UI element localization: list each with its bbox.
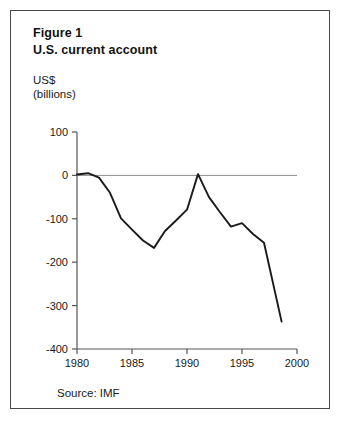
y-axis: 1000-100-200-300-400	[46, 126, 77, 355]
x-axis-tick-label: 1980	[65, 357, 89, 369]
data-series-line	[77, 173, 282, 321]
y-axis-tick-label: -400	[46, 343, 68, 355]
figure-card: Figure 1 U.S. current account US$ (billi…	[10, 10, 330, 409]
series-polyline	[77, 173, 282, 321]
y-axis-tick-label: -200	[46, 256, 68, 268]
source-note: Source: IMF	[57, 387, 120, 399]
y-axis-tick-label: -300	[46, 300, 68, 312]
x-axis-tick-label: 1990	[175, 357, 199, 369]
x-axis-tick-label: 1985	[120, 357, 144, 369]
x-axis-tick-label: 1995	[230, 357, 254, 369]
x-axis-tick-label: 2000	[285, 357, 309, 369]
source-text: Source: IMF	[57, 387, 120, 399]
chart-plot-area: 1000-100-200-300-400 1980198519901995200…	[11, 11, 331, 410]
y-axis-tick-label: 100	[50, 126, 68, 138]
x-axis: 19801985199019952000	[65, 349, 309, 369]
y-axis-tick-label: -100	[46, 213, 68, 225]
y-axis-tick-label: 0	[62, 169, 68, 181]
line-chart: 1000-100-200-300-400 1980198519901995200…	[11, 11, 331, 410]
